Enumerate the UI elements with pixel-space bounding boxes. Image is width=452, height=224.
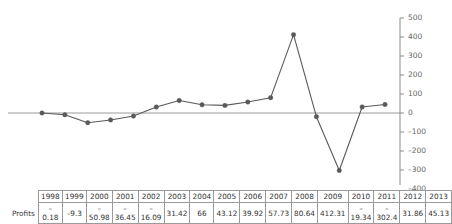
y-axis-tick-label: 100 <box>408 90 422 98</box>
table-value-cell: 39.92 <box>240 203 266 224</box>
table-value-cell: 31.86 <box>400 203 426 224</box>
table-header-cell: 2012 <box>400 191 426 203</box>
y-axis-tick-label: –300 <box>408 166 426 174</box>
table-header-cell: 2000 <box>86 191 112 203</box>
table-header-cell: 2002 <box>138 191 164 203</box>
table-corner-cell <box>10 191 38 203</box>
line-chart-svg <box>0 0 443 185</box>
y-axis-tick-label: –100 <box>408 128 426 136</box>
table-value-cell: –36.45 <box>112 203 138 224</box>
table-header-cell: 2011 <box>374 191 400 203</box>
data-table: 1998199920002001200220032004200520062007… <box>10 190 452 224</box>
table-value-cell: –0.18 <box>38 203 62 224</box>
table-header-row: 1998199920002001200220032004200520062007… <box>10 191 452 203</box>
table-value-cell: –19.34 <box>348 203 374 224</box>
data-point-markers <box>40 32 387 172</box>
table-header-cell: 2010 <box>348 191 374 203</box>
table-value-cell: –50.98 <box>86 203 112 224</box>
table-value-cell: 66 <box>190 203 214 224</box>
table-header-cell: 2003 <box>164 191 190 203</box>
table-header-cell: 2005 <box>214 191 240 203</box>
table-value-cell: 57.73 <box>266 203 292 224</box>
table-value-cell: 80.64 <box>292 203 318 224</box>
y-axis-ticks <box>400 18 404 185</box>
table-row: Profits –0.18–9.3–50.98–36.45–16.0931.42… <box>10 203 452 224</box>
table-header-cell: 2008 <box>292 191 318 203</box>
table-header-cell: 2006 <box>240 191 266 203</box>
y-axis-tick-label: 200 <box>408 71 422 79</box>
table-value-cell: –302.4 <box>374 203 400 224</box>
y-axis-tick-label: –200 <box>408 147 426 155</box>
table-header-cell: 2009 <box>317 191 348 203</box>
plot-area: 5004003002001000–100–200–300–400 <box>0 0 443 185</box>
y-axis-tick-label: 400 <box>408 33 422 41</box>
table-header-cell: 1999 <box>62 191 86 203</box>
table-header-cell: 2007 <box>266 191 292 203</box>
table-row-label: Profits <box>10 203 38 224</box>
table-value-cell: 45.13 <box>426 203 452 224</box>
table-value-cell: 412.31 <box>317 203 348 224</box>
table-value-cell: 43.12 <box>214 203 240 224</box>
table-value-cell: –16.09 <box>138 203 164 224</box>
data-series-line <box>42 35 385 171</box>
y-axis-tick-label: 0 <box>408 109 413 117</box>
table-value-cell: 31.42 <box>164 203 190 224</box>
y-axis-tick-label: 500 <box>408 14 422 22</box>
table-header-cell: 2013 <box>426 191 452 203</box>
table-value-cell: –9.3 <box>62 203 86 224</box>
y-axis-tick-label: 300 <box>408 52 422 60</box>
table-header-cell: 2001 <box>112 191 138 203</box>
table-header-cell: 2004 <box>190 191 214 203</box>
table-header-cell: 1998 <box>38 191 62 203</box>
